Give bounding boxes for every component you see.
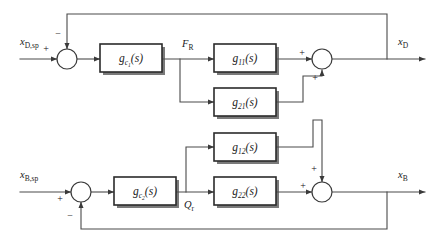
block-g22[interactable]: g22(s) — [214, 177, 279, 208]
summer-circle-sum-bottom-right — [312, 182, 332, 202]
block-g21[interactable]: g21(s) — [214, 88, 279, 119]
input-label-xdsp: xD,sp — [19, 36, 39, 50]
sign-sum-top-right-left: + — [299, 47, 305, 58]
output-label-xb: xB — [397, 169, 408, 183]
block-gc2[interactable]: gc2(s) — [114, 177, 179, 208]
summer-sum-bottom-right[interactable] — [312, 182, 332, 202]
summer-sum-bottom-left[interactable] — [71, 182, 91, 202]
sign-sum-bottom-right-left: + — [300, 180, 306, 191]
signal-label-fr: FR — [181, 38, 193, 52]
sign-sum-top-left-left: + — [43, 43, 49, 54]
block-g11[interactable]: g11(s) — [214, 44, 279, 75]
summer-circle-sum-top-left — [57, 49, 77, 69]
sign-sum-bottom-right-top: + — [311, 163, 317, 174]
block-gc1[interactable]: gc1(s) — [100, 44, 165, 75]
summer-sum-top-right[interactable] — [312, 49, 332, 69]
output-label-xd: xD — [397, 36, 409, 50]
block-g12[interactable]: g12(s) — [214, 133, 279, 164]
signal-label-qr: Qr — [184, 199, 195, 213]
wire-w-qr-branch — [186, 147, 214, 192]
sign-sum-top-left-top: − — [55, 28, 61, 39]
block-diagram-canvas: gc1(s)g11(s)g21(s)g12(s)gc2(s)g22(s) +−+… — [0, 0, 437, 241]
summer-circle-sum-bottom-left — [71, 182, 91, 202]
block-layer: gc1(s)g11(s)g21(s)g12(s)gc2(s)g22(s) — [100, 44, 279, 208]
block-diagram-svg: gc1(s)g11(s)g21(s)g12(s)gc2(s)g22(s) +−+… — [0, 0, 437, 241]
sign-sum-bottom-left-bottom: − — [67, 210, 73, 221]
sign-sum-top-right-bottom: + — [312, 72, 318, 83]
summer-sum-top-left[interactable] — [57, 49, 77, 69]
summer-circle-sum-top-right — [312, 49, 332, 69]
wire-w-fr-branch — [180, 59, 214, 102]
input-label-xbsp: xB,sp — [19, 169, 38, 183]
summer-layer — [57, 49, 332, 202]
sign-sum-bottom-left-left: + — [57, 193, 63, 204]
